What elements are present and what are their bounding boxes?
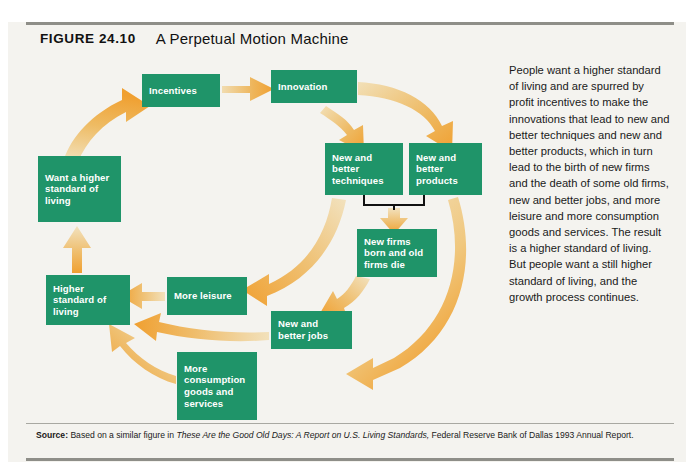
source-publication-title: These Are the Good Old Days: A Report on… [176, 430, 429, 440]
arrow-innovation-to-products [358, 82, 453, 152]
arrow-newjobs-to-higherstd [134, 313, 269, 341]
source-divider-rule [26, 423, 674, 424]
footer-divider-rule [26, 458, 674, 461]
figure-number-label: FIGURE 24.10 [40, 31, 136, 46]
figure-caption: People want a higher standard of living … [509, 62, 671, 305]
node-wanthigher-label: Want a higher standard of living [45, 172, 114, 207]
node-incentives-label: Incentives [149, 85, 197, 97]
node-incentives[interactable]: Incentives [142, 74, 220, 107]
page-margin-left [0, 0, 8, 476]
node-newfirms-label: New firms born and old firms die [364, 236, 430, 271]
node-higher-standard-of-living[interactable]: Higher standard of living [46, 275, 130, 325]
perpetual-motion-cycle-diagram: Incentives Innovation New and better tec… [26, 56, 496, 422]
node-new-firms-born-old-firms-die[interactable]: New firms born and old firms die [357, 229, 437, 277]
page-margin-right [686, 0, 694, 476]
node-new-and-better-products[interactable]: New and better products [409, 143, 482, 195]
arrow-higherstd-to-wanthigher [63, 226, 91, 273]
node-more-consumption-goods-and-services[interactable]: More consumption goods and services [177, 352, 257, 420]
node-higherstd-label: Higher standard of living [53, 283, 123, 318]
arrow-wanthigher-to-incentives [64, 88, 150, 162]
page-margin-bottom [0, 462, 694, 476]
node-consumption-label: More consumption goods and services [184, 363, 250, 409]
node-more-leisure[interactable]: More leisure [167, 277, 247, 315]
node-newjobs-label: New and better jobs [278, 318, 345, 341]
source-lead: Source: [36, 430, 68, 440]
source-before-title: Based on a similar figure in [68, 430, 176, 440]
figure-header: FIGURE 24.10 A Perpetual Motion Machine [40, 26, 349, 50]
node-products-label: New and better products [416, 152, 475, 187]
node-new-and-better-jobs[interactable]: New and better jobs [271, 311, 352, 349]
page-margin-top [0, 0, 694, 22]
figure-title: A Perpetual Motion Machine [156, 30, 349, 47]
node-techniques-label: New and better techniques [332, 152, 396, 187]
source-after-title: Federal Reserve Bank of Dallas 1993 Annu… [429, 430, 633, 440]
node-moreleisure-label: More leisure [174, 290, 232, 302]
bracket-connector [363, 195, 425, 209]
node-innovation[interactable]: Innovation [271, 70, 357, 103]
node-innovation-label: Innovation [278, 81, 328, 93]
arrow-incentives-to-innovation [222, 77, 274, 101]
node-new-and-better-techniques[interactable]: New and better techniques [325, 143, 403, 195]
header-divider-rule [26, 22, 674, 25]
source-note: Source: Based on a similar figure in The… [36, 430, 666, 441]
figure-container: FIGURE 24.10 A Perpetual Motion Machine … [0, 0, 694, 476]
node-want-a-higher-standard-of-living[interactable]: Want a higher standard of living [38, 156, 121, 222]
arrow-products-to-consumption [346, 197, 466, 390]
arrow-techniques-to-moreleisure [242, 198, 346, 306]
